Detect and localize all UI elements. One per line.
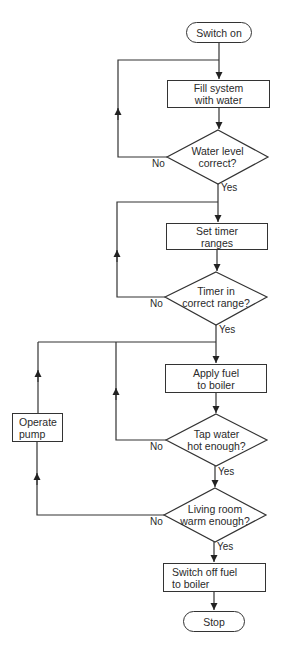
process-set-timer: Set timer ranges <box>166 223 268 250</box>
process-text: Operate <box>19 416 57 428</box>
label-no: No <box>152 158 165 169</box>
label-yes: Yes <box>218 466 234 477</box>
label-yes: Yes <box>219 324 235 335</box>
decision-text: Timer in <box>197 285 235 297</box>
decision-text: correct? <box>199 157 237 169</box>
process-text: Apply fuel <box>193 367 239 379</box>
start-terminal: Switch on <box>186 22 252 43</box>
process-text: pump <box>19 428 45 440</box>
decision-text: correct range? <box>182 297 250 309</box>
process-operate-pump: Operate pump <box>12 413 63 442</box>
label-no: No <box>150 441 163 452</box>
process-text: with water <box>195 94 242 106</box>
process-fill-system: Fill system with water <box>167 80 270 108</box>
process-text: to boiler <box>197 379 234 391</box>
label-yes: Yes <box>221 182 237 193</box>
decision-text: warm enough? <box>180 515 249 527</box>
label-yes: Yes <box>217 541 233 552</box>
decision-text: Water level <box>191 145 243 157</box>
process-text: ranges <box>201 237 233 249</box>
edge-tap-water-no <box>116 342 166 440</box>
decision-text: hot enough? <box>187 440 245 452</box>
start-label: Switch on <box>196 27 242 39</box>
process-text: Switch off fuel <box>172 566 237 578</box>
process-switch-off-fuel: Switch off fuel to boiler <box>163 563 266 592</box>
process-text: Fill system <box>194 82 244 94</box>
decision-water-level: Water level correct? <box>167 143 268 171</box>
label-no: No <box>150 516 163 527</box>
process-text: to boiler <box>172 578 209 590</box>
end-terminal: Stop <box>183 611 245 632</box>
decision-timer-range: Timer in correct range? <box>165 283 267 311</box>
edge-living-room-no <box>37 442 164 515</box>
process-apply-fuel: Apply fuel to boiler <box>165 364 267 393</box>
decision-text: Tap water <box>194 428 240 440</box>
label-no: No <box>150 298 163 309</box>
end-label: Stop <box>203 616 225 628</box>
process-text: Set timer <box>196 225 238 237</box>
decision-text: Living room <box>188 503 242 515</box>
decision-tap-water: Tap water hot enough? <box>166 426 267 454</box>
decision-living-room: Living room warm enough? <box>164 501 266 529</box>
